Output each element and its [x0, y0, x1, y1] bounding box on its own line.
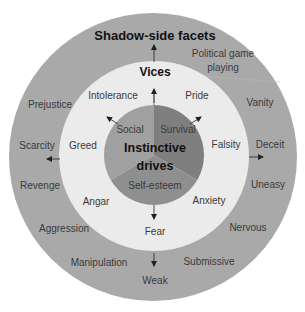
vice-intolerance: Intolerance — [88, 90, 138, 101]
facet-uneasy: Uneasy — [251, 179, 285, 190]
drive-label-self-esteem: Self-esteem — [128, 180, 181, 191]
drive-label-survival: Survival — [160, 124, 196, 135]
vice-anger: Angar — [83, 196, 110, 207]
facet-submissive: Submissive — [183, 256, 235, 267]
facet-political-game-playing-line2: playing — [207, 62, 239, 73]
facet-revenge: Revenge — [20, 180, 60, 191]
facet-deceit: Deceit — [256, 139, 285, 150]
outer-title: Shadow-side facets — [94, 28, 215, 43]
vice-falsity: Falsity — [212, 139, 241, 150]
facet-scarcity: Scarcity — [19, 140, 55, 151]
facet-weak: Weak — [142, 275, 168, 286]
vice-anxiety: Anxiety — [193, 195, 226, 206]
concentric-diagram: Shadow-side facets Vices Instinctive dri… — [0, 0, 305, 312]
facet-nervous: Nervous — [229, 222, 266, 233]
drive-label-social: Social — [116, 124, 143, 135]
middle-title: Vices — [139, 65, 170, 79]
center-title-line1: Instinctive — [124, 141, 186, 155]
facet-political-game-playing: Political game — [192, 48, 255, 59]
facet-vanity: Vanity — [246, 97, 273, 108]
vice-fear: Fear — [145, 226, 166, 237]
facet-manipulation: Manipulation — [71, 257, 128, 268]
vice-greed: Greed — [69, 140, 97, 151]
vice-pride: Pride — [185, 90, 209, 101]
center-title-line2: drives — [137, 159, 174, 173]
facet-aggression: Aggression — [39, 223, 89, 234]
facet-prejustice: Prejustice — [28, 99, 72, 110]
